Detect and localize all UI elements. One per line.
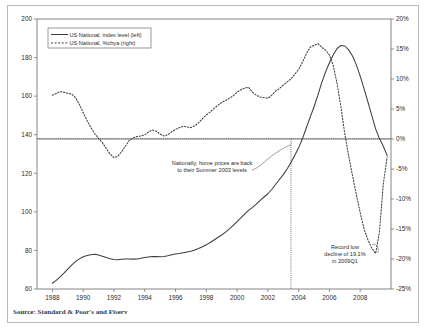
x-axis-tick-label: 2004 bbox=[292, 294, 307, 301]
right-axis-tick-label: -25% bbox=[396, 285, 411, 292]
source-note: Source: Standard & Poor's and Fiserv bbox=[13, 308, 128, 316]
chart-svg: 6080100120140160180200-25%-20%-15%-10%-5… bbox=[0, 0, 426, 331]
left-axis-tick-label: 140 bbox=[21, 131, 32, 138]
x-axis-tick-label: 1998 bbox=[199, 294, 214, 301]
x-axis-tick-label: 2002 bbox=[261, 294, 276, 301]
series-pct-change bbox=[52, 44, 387, 254]
left-axis-tick-label: 120 bbox=[21, 170, 32, 177]
x-axis-tick-label: 2000 bbox=[230, 294, 245, 301]
x-axis-tick-label: 1996 bbox=[168, 294, 183, 301]
right-axis-tick-label: 15% bbox=[396, 45, 409, 52]
chart-figure: 6080100120140160180200-25%-20%-15%-10%-5… bbox=[0, 0, 426, 331]
annotation-leader-summer-2003 bbox=[252, 145, 291, 170]
left-axis-tick-label: 160 bbox=[21, 92, 32, 99]
x-axis-tick-label: 1990 bbox=[76, 294, 91, 301]
x-axis-tick-label: 2006 bbox=[322, 294, 337, 301]
annotation-summer-2003-line: Nationally, home prices are back bbox=[172, 160, 253, 166]
right-axis-tick-label: 10% bbox=[396, 75, 409, 82]
right-axis-tick-label: 20% bbox=[396, 15, 409, 22]
right-axis-tick-label: -20% bbox=[396, 255, 411, 262]
right-axis-tick-label: -15% bbox=[396, 225, 411, 232]
left-axis-tick-label: 100 bbox=[21, 208, 32, 215]
left-axis-tick-label: 80 bbox=[25, 247, 33, 254]
right-axis-tick-label: -5% bbox=[396, 165, 408, 172]
legend-label-0: US National, index level (left) bbox=[70, 32, 142, 38]
x-axis-tick-label: 1994 bbox=[138, 294, 153, 301]
annotation-summer-2003-line: to their Summer 2003 levels bbox=[177, 167, 247, 173]
annotation-record-low-line: Record low bbox=[331, 244, 360, 250]
x-axis-tick-label: 1988 bbox=[45, 294, 60, 301]
annotation-record-low-line: in 2009Q1 bbox=[332, 258, 358, 264]
right-axis-tick-label: -10% bbox=[396, 195, 411, 202]
right-axis-tick-label: 0% bbox=[396, 135, 406, 142]
legend-label-1: US National, %chya (right) bbox=[70, 40, 136, 46]
x-axis-tick-label: 2008 bbox=[353, 294, 368, 301]
left-axis-tick-label: 60 bbox=[25, 285, 33, 292]
left-axis-tick-label: 200 bbox=[21, 15, 32, 22]
left-axis-tick-label: 180 bbox=[21, 54, 32, 61]
annotation-record-low-line: decline of 19.1% bbox=[324, 251, 365, 257]
x-axis-tick-label: 1992 bbox=[107, 294, 122, 301]
right-axis-tick-label: 5% bbox=[396, 105, 406, 112]
